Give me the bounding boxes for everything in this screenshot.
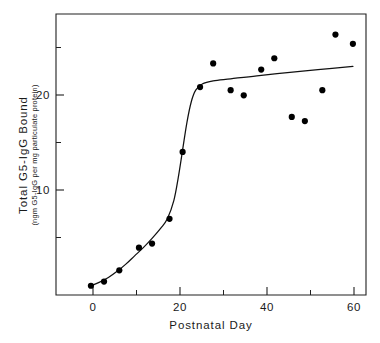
- data-point: [228, 87, 234, 93]
- data-point: [116, 267, 122, 273]
- x-tick-labels: 0 20 40 60: [90, 301, 362, 313]
- y-axis-ticks: [56, 48, 64, 238]
- fit-curve-group: [91, 66, 353, 285]
- data-point: [350, 41, 356, 47]
- x-tick-label-60: 60: [347, 301, 361, 313]
- sigmoid-fit-curve: [91, 66, 353, 285]
- data-point: [289, 114, 295, 120]
- data-point: [180, 149, 186, 155]
- data-point: [149, 240, 155, 246]
- x-axis-ticks: [93, 287, 354, 295]
- data-point: [271, 55, 277, 61]
- data-point: [166, 216, 172, 222]
- data-point: [136, 245, 142, 251]
- data-point: [101, 279, 107, 285]
- axis-frame-path: [56, 14, 366, 295]
- scatter-plot: 0 20 40 60 10 20 Postnatal Day Total G5-…: [0, 0, 380, 343]
- y-axis-units: (ngm G5-IgG per mg particulate protein): [30, 84, 39, 225]
- x-axis-title-group: Postnatal Day: [169, 319, 252, 331]
- data-point: [332, 31, 338, 37]
- x-tick-label-40: 40: [260, 301, 274, 313]
- x-axis-title: Postnatal Day: [169, 319, 252, 331]
- y-axis-title: Total G5-IgG Bound: [17, 96, 29, 214]
- plot-frame: [56, 14, 366, 295]
- data-point: [210, 60, 216, 66]
- x-tick-label-0: 0: [90, 301, 97, 313]
- data-point: [302, 118, 308, 124]
- figure-container: 0 20 40 60 10 20 Postnatal Day Total G5-…: [0, 0, 380, 343]
- data-point: [88, 283, 94, 289]
- data-point: [258, 66, 264, 72]
- data-point: [319, 87, 325, 93]
- y-axis-title-group: Total G5-IgG Bound (ngm G5-IgG per mg pa…: [17, 84, 39, 225]
- data-point: [241, 92, 247, 98]
- data-point: [197, 84, 203, 90]
- x-tick-label-20: 20: [173, 301, 187, 313]
